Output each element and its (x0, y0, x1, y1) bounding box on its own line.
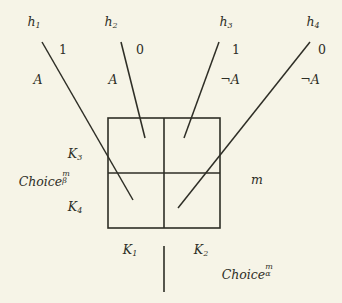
figure-vector-layer (0, 0, 342, 303)
hypothesis-label-h3: h3 (219, 16, 232, 29)
cell-label-k2: K2 (194, 244, 208, 257)
bit-label-h1: 1 (59, 44, 67, 57)
atom-label-h4: ¬A (300, 74, 320, 87)
hypothesis-label-h2: h2 (104, 16, 117, 29)
cell-label-k4: K4 (68, 201, 82, 214)
bit-label-h3: 1 (232, 44, 240, 57)
h3-transition-line (184, 42, 219, 138)
cell-label-k3: K3 (68, 148, 82, 161)
atom-label-h2: A (108, 74, 117, 87)
h4-transition-line (178, 42, 310, 208)
moment-label-m: m (251, 174, 263, 187)
hypothesis-label-h1: h1 (27, 16, 40, 29)
hypothesis-label-h4: h4 (306, 16, 319, 29)
choice-structure-figure: h1 h2 h3 h4 1 0 1 0 A A ¬A ¬A K3 K4 K1 K… (0, 0, 342, 303)
atom-label-h1: A (33, 74, 42, 87)
choice-label-beta: Choicemβ (19, 174, 72, 189)
bit-label-h2: 0 (136, 44, 144, 57)
bit-label-h4: 0 (318, 44, 326, 57)
cell-label-k1: K1 (123, 244, 137, 257)
atom-label-h3: ¬A (220, 74, 240, 87)
choice-label-alpha: Choicemα (222, 267, 275, 282)
